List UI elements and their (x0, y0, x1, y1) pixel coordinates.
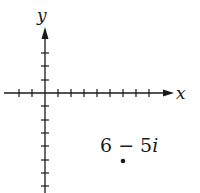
x-axis-label: x (176, 83, 186, 103)
data-point (121, 159, 126, 164)
y-axis-arrow-icon (42, 27, 49, 39)
point-label-real: 6 − 5 (100, 134, 152, 156)
y-axis-label: y (36, 5, 47, 25)
point-label-imag-unit: i (152, 134, 158, 156)
x-axis-arrow-icon (163, 90, 174, 97)
complex-plane-diagram: x y 6 − 5i (0, 0, 200, 193)
point-label: 6 − 5i (100, 134, 158, 156)
